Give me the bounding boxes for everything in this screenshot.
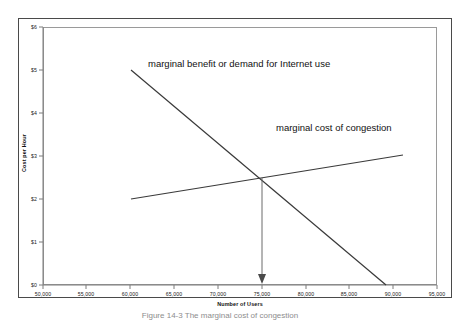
marginal-cost-curve-label: marginal cost of congestion [276, 122, 392, 133]
x-tick-label-75000: 75,000 [242, 291, 282, 297]
y-axis-title: Cost per Hour [21, 123, 27, 183]
x-axis-title: Number of Users [170, 301, 310, 307]
x-axis-ticks [43, 285, 437, 289]
figure-container: $0 $1 $2 $3 $4 $5 $6 50,000 55,000 60,00… [0, 0, 467, 324]
x-tick-label-90000: 90,000 [373, 291, 413, 297]
marginal-cost-curve-line [131, 155, 403, 199]
chart-plot-svg [0, 0, 467, 324]
x-tick-label-85000: 85,000 [329, 291, 369, 297]
x-tick-label-80000: 80,000 [286, 291, 326, 297]
equilibrium-drop-arrow [258, 178, 266, 284]
y-tick-label-4: $4 [21, 110, 37, 116]
demand-curve-label: marginal benefit or demand for Internet … [148, 58, 330, 69]
y-tick-label-1: $1 [21, 239, 37, 245]
x-tick-label-95000: 95,000 [417, 291, 457, 297]
y-tick-label-2: $2 [21, 196, 37, 202]
y-tick-label-6: $6 [21, 24, 37, 30]
x-tick-label-60000: 60,000 [110, 291, 150, 297]
x-tick-label-70000: 70,000 [198, 291, 238, 297]
x-tick-label-65000: 65,000 [154, 291, 194, 297]
demand-curve-line [131, 70, 386, 285]
y-tick-label-0: $0 [21, 282, 37, 288]
figure-caption: Figure 14-3 The marginal cost of congest… [60, 311, 380, 324]
x-tick-label-55000: 55,000 [66, 291, 106, 297]
y-axis-ticks [39, 27, 43, 285]
x-tick-label-50000: 50,000 [23, 291, 63, 297]
y-tick-label-5: $5 [21, 67, 37, 73]
